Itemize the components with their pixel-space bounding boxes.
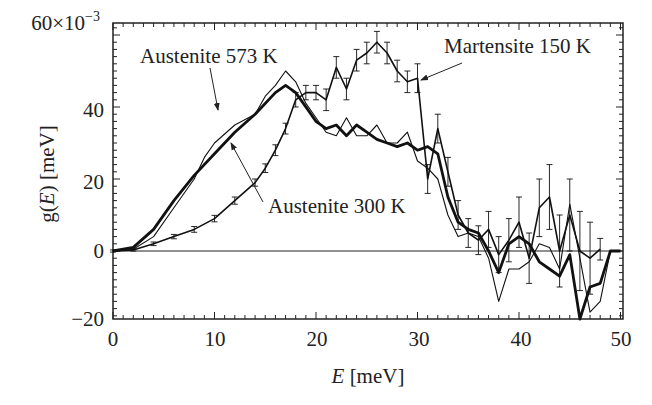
error-bar [506,219,512,262]
error-bar [486,211,492,247]
x-tick-label-50: 50 [611,327,632,351]
x-tick-label-20: 20 [307,327,328,351]
arrow-martensite-150k [421,63,462,80]
x-tick-label-10: 10 [205,327,226,351]
y-tick-label-60: 60×10−3 [31,9,100,35]
error-bar [597,238,603,260]
x-tick-label-0: 0 [108,327,119,351]
phonon-dos-chart: 60×10−3 40 20 0 −20 0 10 20 30 40 50 E [… [0,0,652,405]
error-bar [546,165,552,230]
error-bar [394,60,400,82]
annotation-austenite-300k: Austenite 300 K [268,194,406,218]
x-tick-label-40: 40 [511,327,532,351]
arrow-austenite-300k [231,143,263,202]
x-axis-title: E [meV] [331,364,405,388]
y-tick-label-40: 40 [83,98,104,122]
y-axis-title: g(E) [meV] [35,125,59,222]
error-bar [384,42,390,64]
y-tick-label-20: 20 [83,170,104,194]
y-tick-label-0: 0 [94,239,105,263]
x-tick-label-30: 30 [409,327,430,351]
error-bar [536,179,542,237]
y-tick-label-minus20: −20 [71,307,104,331]
error-bar [465,219,471,248]
annotation-austenite-573k: Austenite 573 K [140,44,278,68]
arrow-austenite-573k [210,68,218,110]
error-bar [364,42,370,64]
series-layer [110,31,621,319]
series-martensite-150-k [113,42,600,258]
error-bar [587,222,593,294]
error-bar [516,197,522,247]
error-bar [374,31,380,53]
series-austenite-573-k [113,71,621,312]
annotation-martensite-150k: Martensite 150 K [444,34,591,58]
